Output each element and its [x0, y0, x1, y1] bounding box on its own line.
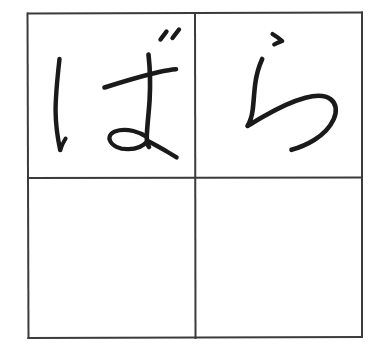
practice-grid-canvas — [0, 0, 386, 348]
grid-border-left — [28, 14, 29, 339]
grid-cell-bottom-right[interactable] — [196, 179, 361, 337]
grid-divider-horizontal — [28, 178, 362, 179]
handwriting-worksheet: ば ら ばら bara rose — [0, 0, 386, 348]
grid-divider-vertical — [195, 13, 196, 338]
practice-grid — [28, 13, 363, 339]
grid-cell-bottom-left[interactable] — [28, 179, 194, 337]
